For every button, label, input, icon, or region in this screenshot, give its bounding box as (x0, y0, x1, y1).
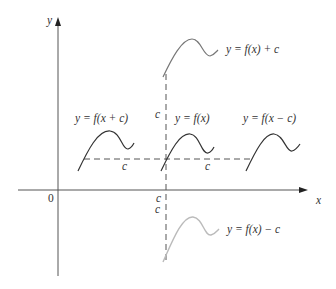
x-axis-label: x (316, 195, 321, 207)
y-axis (55, 17, 61, 276)
curve-f-plus-c (163, 39, 218, 77)
shift-diagram: y x 0 c c c c c y = f(x + c) y = f(x) y … (0, 0, 336, 289)
label-f-minus-c: y = f(x) − c (227, 224, 280, 236)
label-f-x-minus-c: y = f(x − c) (243, 113, 296, 125)
shift-label-up: c (155, 109, 160, 121)
x-axis-arrow-icon (299, 187, 308, 193)
curve-f-minus-c (163, 217, 219, 262)
shift-label-down: c (155, 204, 160, 216)
origin-label: 0 (48, 193, 54, 205)
diagram-canvas (0, 0, 336, 289)
shift-label-right: c (205, 161, 210, 173)
label-f-plus-c: y = f(x) + c (226, 44, 279, 56)
y-axis-label: y (47, 15, 52, 27)
x-axis (18, 187, 308, 193)
label-f-x-plus-c: y = f(x + c) (75, 113, 128, 125)
y-axis-arrow-icon (55, 17, 61, 26)
shift-label-left: c (122, 161, 127, 173)
curve-f-x-minus-c (246, 134, 300, 171)
label-f: y = f(x) (175, 113, 210, 125)
